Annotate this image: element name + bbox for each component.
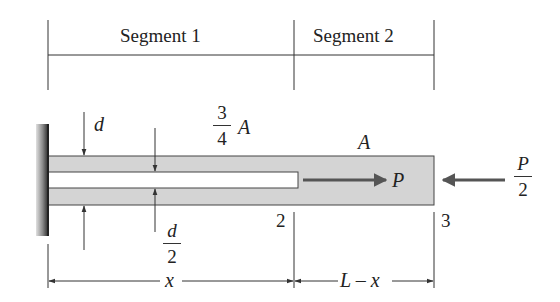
point-3-label: 3 — [441, 211, 451, 230]
load-p-label: P — [392, 170, 404, 190]
segment-1-area-symbol: A — [238, 117, 250, 137]
bar-diagram: Segment 1 Segment 2 d 3 4 A A d 2 2 3 x … — [0, 0, 560, 302]
outer-thickness-label: d — [94, 114, 104, 134]
fraction-bar — [514, 176, 532, 177]
slot — [48, 172, 298, 188]
diagram-graphics — [0, 0, 560, 302]
segment-1-length-label: x — [165, 270, 174, 290]
load-p-half-fraction: P 2 — [514, 154, 532, 199]
fraction-denominator: 4 — [217, 129, 227, 148]
segment-1-label: Segment 1 — [120, 26, 201, 45]
fraction-bar — [163, 243, 181, 244]
segment-2-length-label: L – x — [340, 270, 380, 290]
fraction-denominator: 2 — [167, 247, 177, 266]
fraction-numerator: P — [517, 154, 529, 173]
fraction-denominator: 2 — [518, 180, 528, 199]
fraction-numerator: 3 — [217, 103, 227, 122]
point-2-label: 2 — [276, 211, 286, 230]
slot-thickness-fraction: d 2 — [163, 221, 181, 266]
fixed-wall — [36, 124, 48, 236]
segment-2-area-label: A — [358, 132, 370, 152]
fraction-bar — [213, 125, 231, 126]
segment-1-area-fraction: 3 4 — [213, 103, 231, 148]
segment-2-label: Segment 2 — [313, 26, 394, 45]
fraction-numerator: d — [167, 221, 177, 240]
